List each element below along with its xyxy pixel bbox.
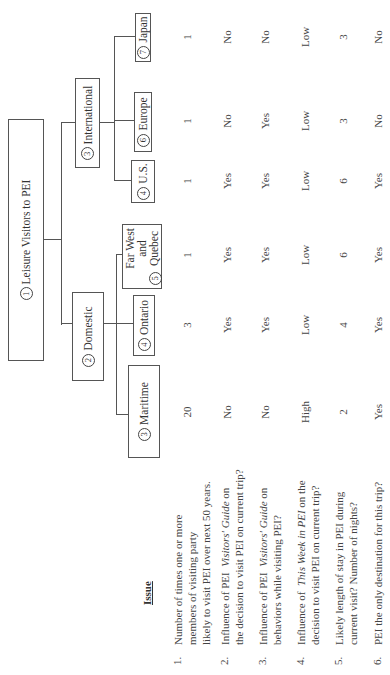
connector: [116, 414, 128, 415]
number-circle: 1: [20, 287, 33, 300]
cell-value: Low: [299, 315, 311, 335]
maritime-box: 3 Maritime: [128, 365, 160, 458]
row-number: 3.: [256, 657, 268, 665]
cell-value: 20: [181, 407, 193, 418]
cell-value: Yes: [221, 173, 233, 189]
cell-value: 3: [337, 118, 349, 124]
domestic-label: Domestic: [82, 306, 94, 350]
row-number: 4.: [294, 657, 306, 665]
connector: [116, 254, 122, 255]
cell-value: No: [259, 30, 271, 43]
number-circle: 6: [137, 134, 150, 147]
connector: [114, 180, 131, 181]
number-circle: 4: [138, 338, 151, 351]
number-circle: 3: [138, 428, 151, 441]
number-circle: 3: [81, 147, 94, 160]
cell-value: Yes: [259, 173, 271, 189]
issue-text: Influence of This Week in PEI on the dec…: [294, 480, 322, 645]
us-box: 4 U.S.: [131, 160, 155, 203]
cell-value: No: [221, 30, 233, 43]
number-circle: 4: [137, 187, 150, 200]
japan-box: 7 Japan: [135, 13, 151, 62]
connector: [61, 323, 72, 324]
connector: [104, 323, 116, 324]
cell-value: Yes: [372, 317, 384, 333]
cell-value: 6: [337, 178, 349, 184]
cell-value: 1: [181, 178, 193, 184]
cell-value: Low: [299, 27, 311, 47]
japan-label: Japan: [137, 16, 149, 42]
cell-value: 1: [181, 34, 193, 40]
issue-header: Issue: [141, 581, 153, 605]
ontario-label: Ontario: [138, 300, 150, 335]
connector: [116, 254, 117, 415]
number-circle: 5: [149, 272, 162, 285]
farwest-label-line1: Far West: [124, 228, 136, 269]
connector: [114, 120, 134, 121]
cell-value: Low: [299, 171, 311, 191]
europe-label: Europe: [137, 97, 149, 130]
connector: [114, 36, 135, 37]
cell-value: No: [259, 405, 271, 418]
domestic-box: 2 Domestic: [72, 292, 104, 381]
international-box: 3 International: [75, 78, 100, 168]
row-number: 2.: [218, 657, 230, 665]
ontario-box: 4 Ontario: [133, 295, 155, 356]
row-number: 5.: [332, 657, 344, 665]
cell-value: 4: [337, 322, 349, 328]
international-label: International: [82, 86, 94, 145]
issue-text: PEI the only destination for this trip?: [371, 482, 385, 645]
root-label: Leisure Visitors to PEI: [20, 180, 32, 285]
cell-value: 3: [181, 322, 193, 328]
number-circle: 2: [82, 354, 95, 367]
farwest-quebec-box: 5 Far West and Quebec: [122, 224, 162, 289]
issue-text: Influence of PEI Visitors' Guide on beha…: [256, 488, 284, 645]
connector: [61, 122, 75, 123]
number-circle: 7: [137, 46, 150, 59]
row-number: 6.: [371, 657, 383, 665]
maritime-label: Maritime: [138, 382, 150, 425]
cell-value: 1: [181, 252, 193, 258]
us-label: U.S.: [137, 163, 149, 183]
farwest-label-line3: Quebec: [148, 228, 160, 269]
row-number: 1.: [171, 657, 183, 665]
cell-value: No: [372, 114, 384, 127]
cell-value: Yes: [372, 247, 384, 263]
cell-value: Yes: [221, 317, 233, 333]
connector: [61, 122, 62, 325]
cell-value: Low: [299, 111, 311, 131]
cell-value: 3: [337, 34, 349, 40]
cell-value: 6: [337, 252, 349, 258]
cell-value: 2: [337, 409, 349, 415]
cell-value: Low: [299, 245, 311, 265]
cell-value: Yes: [259, 247, 271, 263]
connector: [116, 323, 133, 324]
cell-value: Yes: [372, 404, 384, 420]
connector: [44, 239, 61, 240]
issue-text: Influence of PEI Visitors' Guide on the …: [218, 469, 246, 645]
cell-value: Yes: [372, 173, 384, 189]
root-box: 1 Leisure Visitors to PEI: [8, 119, 44, 361]
cell-value: Yes: [221, 247, 233, 263]
issue-text: Number of times one or more members of v…: [171, 481, 213, 645]
connector: [114, 36, 115, 181]
issue-text: Likely length of stay in PEI during curr…: [332, 492, 360, 645]
europe-box: 6 Europe: [134, 92, 152, 152]
cell-value: No: [372, 30, 384, 43]
cell-value: 1: [181, 118, 193, 124]
cell-value: No: [221, 405, 233, 418]
connector: [100, 122, 114, 123]
cell-value: High: [299, 401, 311, 423]
cell-value: Yes: [259, 317, 271, 333]
farwest-label-line2: and: [136, 228, 148, 269]
cell-value: Yes: [259, 113, 271, 129]
cell-value: No: [221, 114, 233, 127]
rotated-page: 1 Leisure Visitors to PEI 3 Internationa…: [0, 0, 390, 675]
